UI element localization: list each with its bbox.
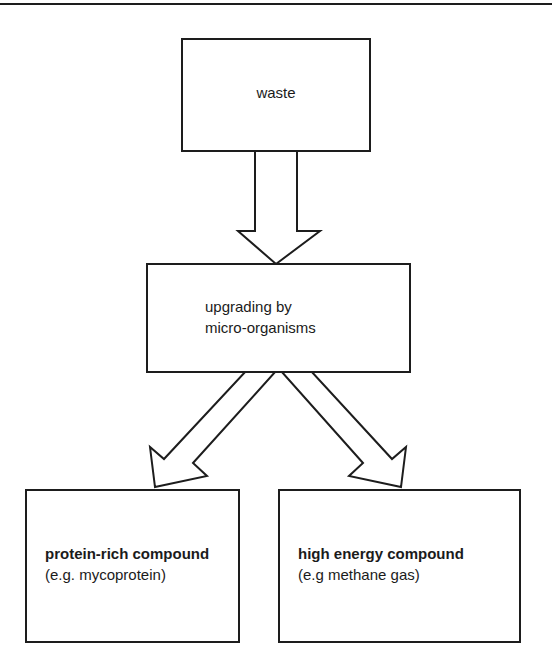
node-waste-label: waste xyxy=(183,83,369,103)
node-upgrading-text: upgrading by micro-organisms xyxy=(205,296,316,338)
node-upgrading-line2: micro-organisms xyxy=(205,317,316,338)
node-protein-line2: (e.g. mycoprotein) xyxy=(45,564,209,585)
node-energy-line1: high energy compound xyxy=(298,543,464,564)
node-protein-text: protein-rich compound (e.g. mycoprotein) xyxy=(45,543,209,585)
flow-diagram: waste upgrading by micro-organisms prote… xyxy=(0,0,552,668)
top-horizontal-rule xyxy=(0,3,552,5)
node-high-energy-compound: high energy compound (e.g methane gas) xyxy=(278,489,521,643)
node-energy-text: high energy compound (e.g methane gas) xyxy=(298,543,464,585)
node-energy-line2: (e.g methane gas) xyxy=(298,564,464,585)
node-upgrading-line1: upgrading by xyxy=(205,296,316,317)
node-protein-line1: protein-rich compound xyxy=(45,543,209,564)
down-left-arrow xyxy=(150,371,276,487)
node-upgrading: upgrading by micro-organisms xyxy=(146,263,411,373)
down-arrow xyxy=(238,150,320,264)
down-right-arrow xyxy=(281,371,406,487)
node-protein-rich-compound: protein-rich compound (e.g. mycoprotein) xyxy=(25,489,240,643)
node-waste: waste xyxy=(181,38,371,152)
